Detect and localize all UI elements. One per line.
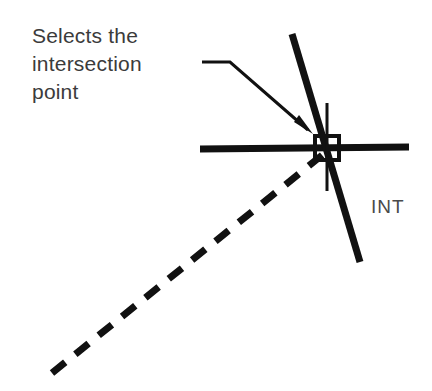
intersection-snap-label: INT (371, 196, 405, 218)
annotation-label: Selects the intersection point (32, 22, 222, 106)
leader-arrowhead-icon (294, 115, 313, 134)
horizontal-line (200, 147, 409, 149)
dashed-diagonal-line (52, 152, 326, 373)
diagram-canvas: Selects the intersection point INT (0, 0, 432, 391)
